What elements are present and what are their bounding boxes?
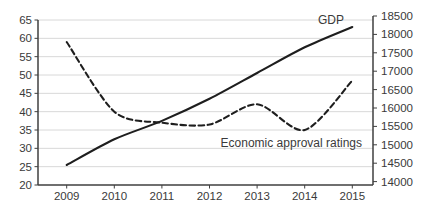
x-axis-tick-label: 2010 <box>102 190 128 202</box>
x-axis-tick-label: 2009 <box>54 190 80 202</box>
right-axis-tick-label: 16500 <box>381 84 413 96</box>
left-axis-tick-label: 45 <box>19 87 32 99</box>
left-axis-tick-label: 60 <box>19 32 32 44</box>
right-axis-tick-label: 17500 <box>381 47 413 59</box>
left-axis-tick-label: 30 <box>19 142 32 154</box>
left-axis-tick-label: 40 <box>19 106 32 118</box>
right-axis-tick-label: 18500 <box>381 10 413 22</box>
left-axis-tick-label: 35 <box>19 124 32 136</box>
right-axis-tick-label: 14000 <box>381 176 413 188</box>
right-axis-tick-label: 15000 <box>381 139 413 151</box>
left-axis-tick-label: 50 <box>19 69 32 81</box>
right-axis-tick-label: 17000 <box>381 65 413 77</box>
left-axis-tick-label: 55 <box>19 51 32 63</box>
right-axis-tick-label: 16000 <box>381 102 413 114</box>
right-axis-tick-label: 18000 <box>381 28 413 40</box>
line-chart: 6560555045403530252018500180001750017000… <box>0 0 430 217</box>
x-axis-tick-label: 2015 <box>340 190 366 202</box>
gdp-series-label: GDP <box>318 13 344 27</box>
right-axis-tick-label: 15500 <box>381 120 413 132</box>
right-axis-tick-label: 14500 <box>381 157 413 169</box>
x-axis-tick-label: 2012 <box>197 190 223 202</box>
left-axis-tick-label: 65 <box>19 14 32 26</box>
x-axis-tick-label: 2014 <box>292 190 318 202</box>
approval-series-label: Economic approval ratings <box>221 136 362 150</box>
x-axis-tick-label: 2011 <box>150 190 175 202</box>
left-axis-tick-label: 25 <box>19 161 32 173</box>
left-axis-tick-label: 20 <box>19 179 32 191</box>
chart-figure: 6560555045403530252018500180001750017000… <box>0 0 430 217</box>
x-axis-tick-label: 2013 <box>244 190 270 202</box>
approval-ratings-line <box>67 42 353 130</box>
